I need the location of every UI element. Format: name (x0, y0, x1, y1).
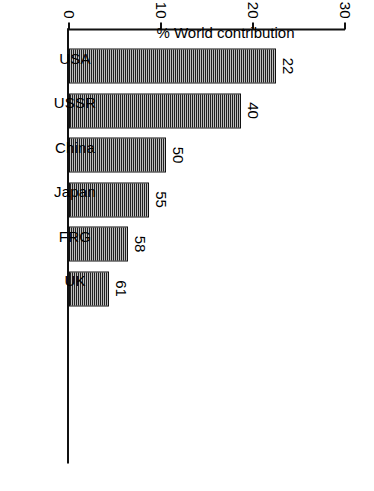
bar-japan[interactable]: Japan (69, 182, 149, 217)
bar-usa[interactable]: USA (69, 48, 276, 83)
tick-label-20: 20 (246, 0, 261, 18)
cumulative-value-label: 61 (113, 280, 130, 297)
bar-category-label: China (55, 138, 95, 155)
bar-category-label: USSR (54, 93, 96, 110)
cumulative-value-label: 58 (132, 235, 149, 252)
cumulative-value-label: 55 (153, 191, 170, 208)
cumulative-value-label: 22 (280, 57, 297, 74)
tick-mark (344, 22, 346, 29)
bar-ussr[interactable]: USSR (69, 93, 241, 128)
bar-slot: China50 (69, 137, 345, 172)
bar-slot: USSR40 (69, 93, 345, 128)
bar-uk[interactable]: UK (69, 271, 109, 306)
cumulative-value-label: 50 (170, 146, 187, 163)
bar-slot: Japan55 (69, 182, 345, 217)
bars-layer: Cumulative % USA22USSR40China50Japan55FR… (69, 30, 345, 463)
bar-category-label: FRG (59, 227, 91, 244)
tick-label-0: 0 (62, 0, 77, 18)
bar-category-label: Japan (54, 182, 96, 199)
bar-chart-figure: 0102030 % World contribution Cumulative … (0, 0, 374, 491)
bar-china[interactable]: China (69, 137, 166, 172)
bar-category-label: UK (64, 271, 85, 288)
bar-slot: USA22 (69, 48, 345, 83)
plot-area: 0102030 % World contribution Cumulative … (0, 0, 374, 491)
bar-slot: UK61 (69, 271, 345, 306)
tick-label-10: 10 (154, 0, 169, 18)
bar-frg[interactable]: FRG (69, 226, 128, 261)
bar-slot: FRG58 (69, 226, 345, 261)
bar-category-label: USA (59, 49, 90, 66)
tick-label-30: 30 (338, 0, 353, 18)
tick-mark (68, 22, 70, 29)
cumulative-value-label: 40 (245, 102, 262, 119)
